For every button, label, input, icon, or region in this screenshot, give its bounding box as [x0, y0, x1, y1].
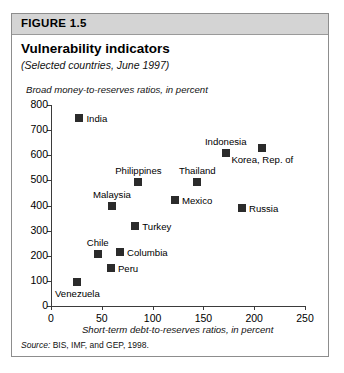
y-tick-label: 100	[30, 274, 48, 286]
data-point-marker	[75, 114, 83, 122]
data-point-label: Malaysia	[93, 189, 131, 200]
data-point-marker	[171, 196, 179, 204]
data-point-marker	[134, 178, 142, 186]
data-point-label: Venezuela	[55, 288, 100, 299]
data-point-label: Mexico	[182, 195, 212, 206]
y-tick-label: 500	[30, 173, 48, 185]
data-point-marker	[222, 149, 230, 157]
data-point-label: Korea, Rep. of	[231, 154, 293, 165]
source-prefix: Source:	[21, 340, 50, 350]
data-point-label: Philippines	[115, 165, 161, 176]
source-text: BIS, IMF, and GEP, 1998.	[50, 340, 149, 350]
y-tick-label: 200	[30, 249, 48, 261]
source-note: Source: BIS, IMF, and GEP, 1998.	[21, 340, 149, 350]
data-point-label: Russia	[249, 203, 278, 214]
data-point-label: Peru	[118, 263, 138, 274]
y-tick-label: 800	[30, 98, 48, 110]
data-point-marker	[238, 204, 246, 212]
data-point-marker	[131, 222, 139, 230]
y-axis-line	[51, 105, 52, 307]
x-axis-label: Short-term debt-to-reserves ratios, in p…	[82, 324, 273, 335]
x-tick-mark	[102, 306, 103, 310]
x-tick-label: 100	[144, 312, 162, 324]
data-point-marker	[107, 264, 115, 272]
x-tick-mark	[203, 306, 204, 310]
x-tick-mark	[254, 306, 255, 310]
data-point-marker	[108, 202, 116, 210]
x-axis-line	[51, 306, 305, 307]
x-tick-label: 150	[195, 312, 213, 324]
y-tick-label: 400	[30, 199, 48, 211]
data-point-label: Columbia	[127, 246, 168, 257]
x-tick-mark	[51, 306, 52, 310]
y-tick-label: 700	[30, 123, 48, 135]
y-tick-label: 300	[30, 224, 48, 236]
data-point-marker	[116, 248, 124, 256]
x-tick-label: 200	[245, 312, 263, 324]
data-point-marker	[94, 250, 102, 258]
data-point-label: India	[86, 112, 107, 123]
x-tick-label: 250	[296, 312, 314, 324]
data-point-marker	[193, 178, 201, 186]
data-point-label: Turkey	[142, 220, 171, 231]
x-tick-mark	[153, 306, 154, 310]
data-point-marker	[73, 278, 81, 286]
data-point-label: Chile	[87, 237, 109, 248]
plot-area: 0100200300400500600700800 05010015020025…	[12, 14, 330, 358]
x-tick-mark	[305, 306, 306, 310]
data-point-label: Thailand	[179, 165, 216, 176]
data-point-marker	[258, 144, 266, 152]
x-tick-label: 50	[96, 312, 108, 324]
y-tick-label: 600	[30, 148, 48, 160]
data-point-label: Indonesia	[205, 136, 247, 147]
y-tick-label: 0	[42, 299, 48, 311]
x-tick-label: 0	[48, 312, 54, 324]
figure-panel: FIGURE 1.5 Vulnerability indicators (Sel…	[11, 13, 329, 357]
